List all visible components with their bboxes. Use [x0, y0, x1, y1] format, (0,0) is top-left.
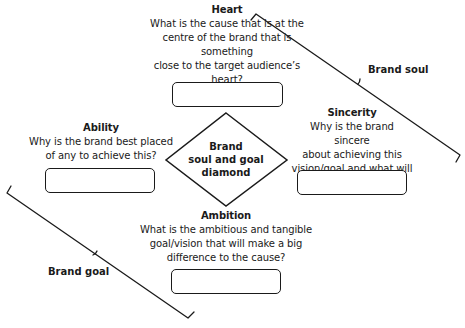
heart-question: What is the cause that is at the centre …: [142, 17, 312, 87]
ability-node: Ability Why is the brand best placed of …: [28, 121, 174, 163]
ambition-title: Ambition: [136, 209, 316, 223]
sincerity-answer-box[interactable]: [297, 170, 407, 195]
ability-answer-box[interactable]: [45, 168, 155, 193]
ability-title: Ability: [28, 121, 174, 135]
brand-goal-label: Brand goal: [48, 266, 109, 278]
brand-soul-label: Brand soul: [368, 64, 428, 76]
ability-question: Why is the brand best placed of any to a…: [28, 135, 174, 163]
ambition-question: What is the ambitious and tangible goal/…: [136, 223, 316, 265]
heart-answer-box[interactable]: [172, 82, 283, 107]
heart-title: Heart: [142, 3, 312, 17]
heart-node: Heart What is the cause that is at the c…: [142, 3, 312, 87]
ambition-node: Ambition What is the ambitious and tangi…: [136, 209, 316, 265]
center-diamond-label: Brand soul and goal diamond: [178, 140, 274, 179]
sincerity-title: Sincerity: [291, 106, 413, 120]
ambition-answer-box[interactable]: [171, 269, 281, 294]
